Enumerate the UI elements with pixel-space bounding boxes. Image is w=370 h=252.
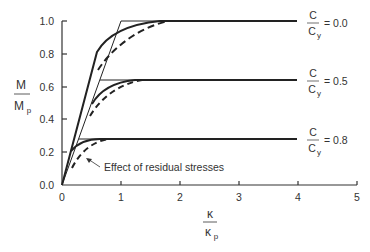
x-tick: 0 bbox=[59, 191, 65, 203]
y-tick: 0.4 bbox=[39, 113, 54, 125]
svg-text:= 0.0: = 0.0 bbox=[324, 17, 348, 29]
svg-text:C: C bbox=[309, 126, 317, 138]
svg-text:= 0.5: = 0.5 bbox=[324, 75, 348, 87]
x-tick: 5 bbox=[354, 191, 360, 203]
svg-text:C: C bbox=[309, 9, 317, 21]
svg-text:y: y bbox=[317, 31, 321, 40]
solid-curve-c08 bbox=[71, 139, 297, 151]
svg-text:C: C bbox=[308, 25, 316, 37]
series-label-c05: C C y = 0.5 bbox=[307, 67, 348, 98]
dashed-curve-c00 bbox=[98, 21, 168, 70]
x-tick: 3 bbox=[236, 191, 242, 203]
x-axis-label: κ κ p bbox=[203, 207, 219, 241]
svg-text:y: y bbox=[317, 148, 321, 157]
svg-text:C: C bbox=[309, 67, 317, 79]
annotation-text: Effect of residual stresses bbox=[104, 161, 224, 173]
y-tick: 0.8 bbox=[39, 48, 54, 60]
series-label-c00: C C y = 0.0 bbox=[307, 9, 348, 40]
svg-text:p: p bbox=[214, 232, 219, 241]
svg-text:M: M bbox=[16, 78, 26, 92]
svg-text:κ: κ bbox=[207, 207, 214, 221]
x-tick: 1 bbox=[118, 191, 124, 203]
svg-text:C: C bbox=[308, 142, 316, 154]
svg-text:y: y bbox=[317, 89, 321, 98]
y-tick: 1.0 bbox=[39, 15, 54, 27]
y-tick: 0.6 bbox=[39, 81, 54, 93]
moment-curvature-chart: 0.0 0.2 0.4 0.6 0.8 1.0 0 1 2 3 4 5 M M … bbox=[0, 0, 370, 252]
svg-text:C: C bbox=[308, 83, 316, 95]
svg-text:= 0.8: = 0.8 bbox=[324, 134, 348, 146]
y-tick-labels: 0.0 0.2 0.4 0.6 0.8 1.0 bbox=[39, 15, 54, 191]
svg-text:κ: κ bbox=[205, 225, 212, 239]
svg-text:M: M bbox=[14, 99, 24, 113]
residual-stress-annotation: Effect of residual stresses bbox=[86, 158, 224, 173]
y-axis-label: M M p bbox=[14, 78, 32, 115]
x-tick: 2 bbox=[177, 191, 183, 203]
x-tick-labels: 0 1 2 3 4 5 bbox=[59, 191, 360, 203]
y-tick: 0.0 bbox=[39, 179, 54, 191]
x-tick: 4 bbox=[295, 191, 301, 203]
solid-curve-c05 bbox=[92, 80, 297, 104]
series-label-c08: C C y = 0.8 bbox=[307, 126, 348, 157]
svg-text:p: p bbox=[27, 106, 32, 115]
y-tick: 0.2 bbox=[39, 146, 54, 158]
